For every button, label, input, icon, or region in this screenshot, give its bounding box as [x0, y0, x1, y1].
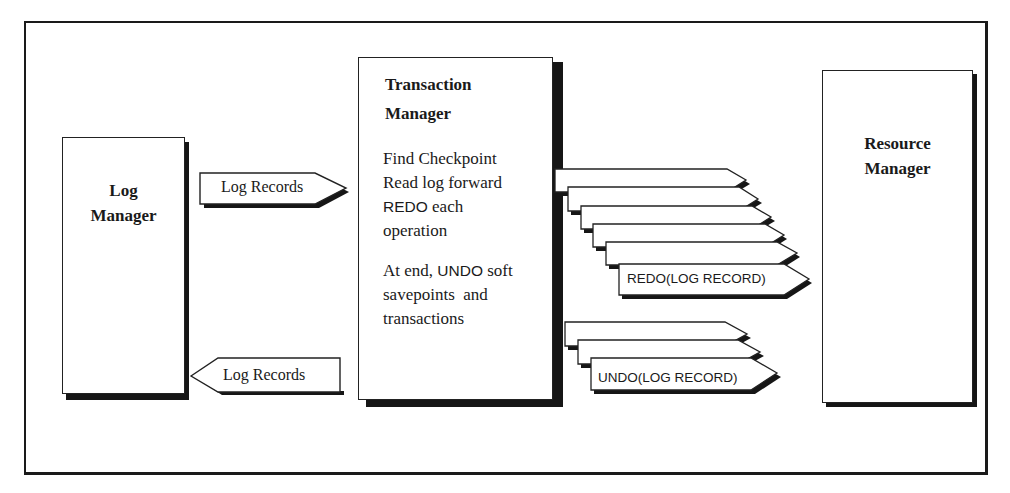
resource-manager-box: Resource Manager	[822, 70, 973, 403]
log-manager-title: Log Manager	[63, 178, 184, 228]
resource-manager-title-line2: Manager	[823, 156, 972, 181]
steps-spacer	[383, 243, 513, 259]
step-transactions: transactions	[383, 307, 513, 331]
at-end-prefix: At end,	[383, 261, 437, 280]
arrow-log-to-tm-label: Log Records	[221, 178, 303, 196]
undo-soft-suffix: soft	[483, 261, 513, 280]
step-operation: operation	[383, 219, 513, 243]
transaction-manager-box: Transaction Manager Find Checkpoint Read…	[358, 57, 553, 400]
resource-manager-title-line1: Resource	[823, 131, 972, 156]
undo-record-stack	[563, 318, 788, 398]
step-read-log-forward: Read log forward	[383, 171, 513, 195]
log-manager-title-line2: Manager	[63, 203, 184, 228]
transaction-manager-title: Transaction Manager	[385, 72, 472, 126]
transaction-manager-title-line1: Transaction	[385, 72, 472, 97]
redo-keyword: REDO	[383, 198, 428, 215]
arrow-tm-to-log-label: Log Records	[223, 366, 305, 384]
log-manager-box: Log Manager	[62, 137, 185, 394]
redo-each-suffix: each	[428, 197, 463, 216]
step-at-end-undo: At end, UNDO soft	[383, 259, 513, 283]
redo-record-front-label: REDO(LOG RECORD)	[627, 271, 766, 286]
step-find-checkpoint: Find Checkpoint	[383, 147, 513, 171]
log-manager-title-line1: Log	[63, 178, 184, 203]
undo-record-front-label: UNDO(LOG RECORD)	[598, 370, 738, 385]
step-redo-each: REDO each	[383, 195, 513, 219]
step-savepoints: savepoints and	[383, 283, 513, 307]
transaction-manager-title-line2: Manager	[385, 101, 472, 126]
resource-manager-title: Resource Manager	[823, 131, 972, 181]
undo-keyword: UNDO	[437, 262, 483, 279]
transaction-manager-steps: Find Checkpoint Read log forward REDO ea…	[383, 147, 513, 331]
